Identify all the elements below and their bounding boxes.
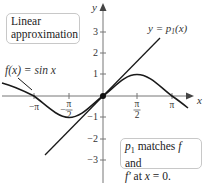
x-axis-label: x xyxy=(196,94,202,106)
tangent-point xyxy=(100,93,106,99)
callout-line: Linear xyxy=(11,15,77,28)
callout-line: f′ at x = 0. xyxy=(125,170,199,183)
x-tick-neg-half-pi-num: π xyxy=(67,99,72,109)
y-axis-arrow-icon xyxy=(100,3,107,11)
callout-linear-approximation: Linear approximation xyxy=(6,13,80,44)
callout-line: p1 matches f and xyxy=(125,140,199,170)
f-label-leader xyxy=(18,78,32,90)
callout-line: approximation xyxy=(11,28,77,41)
callout-p1-matches: p1 matches f and f′ at x = 0. xyxy=(120,138,202,169)
y-tick-2: 2 xyxy=(93,47,98,58)
y-tick-3: 3 xyxy=(93,26,98,37)
x-axis-arrow-icon xyxy=(186,93,194,100)
x-tick-half-pi-num: π xyxy=(135,99,140,109)
y-tick-neg2: −2 xyxy=(87,133,98,144)
p1-label: y = p1(x) xyxy=(147,22,188,36)
x-tick-half-pi-den: 2 xyxy=(135,110,140,120)
x-tick-neg-half-pi-den: 2 xyxy=(67,110,72,120)
y-tick-neg3: −3 xyxy=(87,154,98,165)
f-label: f(x) = sin x xyxy=(5,64,57,77)
y-tick-neg1: −1 xyxy=(87,111,98,122)
y-axis-label: y xyxy=(91,1,97,13)
x-tick-neg-pi: −π xyxy=(29,102,39,112)
y-tick-1: 1 xyxy=(93,68,98,79)
x-tick-neg-half-pi-sign: − xyxy=(60,105,65,115)
x-tick-pi: π xyxy=(170,100,175,110)
